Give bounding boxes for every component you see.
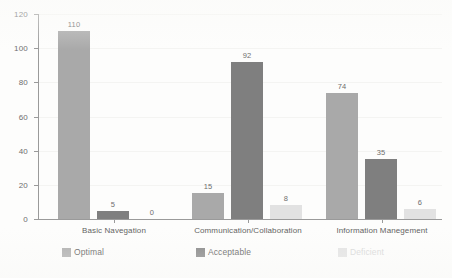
bar-group-basic-navegation: 110 5 0 <box>56 14 171 219</box>
legend-label-acceptable: Acceptable <box>208 247 251 257</box>
bar-group-communication-collaboration: 15 92 8 <box>190 14 305 219</box>
chart-page: 120 100 80 60 40 20 0 110 5 0 <box>0 0 452 278</box>
y-axis-line <box>38 14 39 220</box>
y-tick-100: 100 <box>34 48 38 49</box>
legend-label-optimal: Optimal <box>74 247 104 257</box>
bar-communication-collaboration-acceptable[interactable]: 92 <box>231 62 263 219</box>
x-label-information-manegement: Information Manegement <box>336 226 427 235</box>
bar-value: 110 <box>68 20 81 29</box>
bar-group-information-manegement: 74 35 6 <box>324 14 439 219</box>
y-tick-40: 40 <box>34 151 38 152</box>
bar-information-manegement-optimal[interactable]: 74 <box>326 93 358 219</box>
y-tick-label-100: 100 <box>14 44 28 53</box>
legend-item-acceptable[interactable]: Acceptable <box>196 247 251 257</box>
bar-basic-navegation-optimal[interactable]: 110 <box>58 31 90 219</box>
bar-information-manegement-acceptable[interactable]: 35 <box>365 159 397 219</box>
legend-label-deficient: Deficient <box>350 247 384 257</box>
y-tick-label-40: 40 <box>19 146 28 155</box>
bar-value: 5 <box>111 200 115 209</box>
legend-item-deficient[interactable]: Deficient <box>338 247 384 257</box>
x-label-basic-navegation: Basic Navegation <box>82 226 146 235</box>
bar-value: 0 <box>150 208 154 217</box>
plot-area: 120 100 80 60 40 20 0 110 5 0 <box>38 14 442 220</box>
x-tick-basic-navegation <box>114 219 115 223</box>
bar-communication-collaboration-optimal[interactable]: 15 <box>192 193 224 219</box>
y-tick-60: 60 <box>34 117 38 118</box>
chart-legend: Optimal Acceptable Deficient <box>0 247 452 261</box>
y-tick-label-60: 60 <box>19 112 28 121</box>
y-tick-label-120: 120 <box>14 10 28 19</box>
legend-swatch-acceptable-icon <box>196 248 205 257</box>
x-tick-communication-collaboration <box>248 219 249 223</box>
y-tick-120: 120 <box>34 14 38 15</box>
bar-communication-collaboration-deficient[interactable]: 8 <box>270 205 302 219</box>
y-tick-label-80: 80 <box>19 78 28 87</box>
bar-basic-navegation-acceptable[interactable]: 5 <box>97 211 129 220</box>
legend-item-optimal[interactable]: Optimal <box>62 247 104 257</box>
bar-value: 8 <box>284 194 288 203</box>
y-tick-20: 20 <box>34 185 38 186</box>
y-tick-label-0: 0 <box>23 215 28 224</box>
bar-value: 15 <box>204 182 213 191</box>
legend-swatch-optimal-icon <box>62 248 71 257</box>
bar-value: 35 <box>377 148 386 157</box>
x-label-communication-collaboration: Communication/Collaboration <box>194 226 302 235</box>
legend-swatch-deficient-icon <box>338 248 347 257</box>
y-tick-0: 0 <box>34 219 38 220</box>
y-tick-label-20: 20 <box>19 180 28 189</box>
bar-value: 92 <box>243 51 252 60</box>
bar-value: 74 <box>338 82 347 91</box>
y-tick-80: 80 <box>34 82 38 83</box>
x-tick-information-manegement <box>382 219 383 223</box>
bar-value: 6 <box>418 198 422 207</box>
bar-information-manegement-deficient[interactable]: 6 <box>404 209 436 219</box>
